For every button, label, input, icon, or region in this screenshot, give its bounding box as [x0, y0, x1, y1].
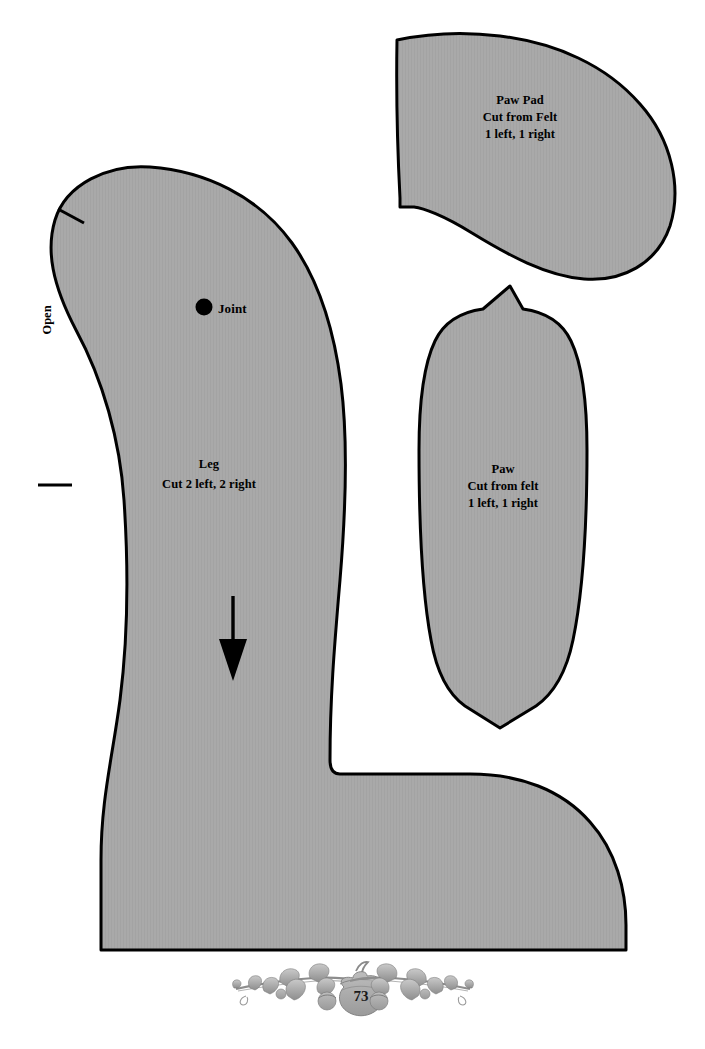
paw-pad-label-line-2: Cut from Felt: [483, 110, 558, 124]
page-number: 73: [354, 988, 369, 1004]
paw-pad-label-line-3: 1 left, 1 right: [485, 127, 556, 141]
leg-label-line-2: Cut 2 left, 2 right: [162, 477, 257, 491]
pattern-sheet-page: Open Joint Leg Cut 2 left, 2 right Paw P…: [0, 0, 705, 1049]
leg-open-label: Open: [40, 305, 54, 334]
leg-joint-label: Joint: [218, 301, 247, 316]
leg-joint-dot: [196, 299, 213, 316]
paw-label-line-3: 1 left, 1 right: [468, 496, 539, 510]
pattern-piece-paw[interactable]: Paw Cut from felt 1 left, 1 right: [419, 286, 587, 728]
leg-label-line-1: Leg: [199, 457, 220, 471]
paw-pad-label-line-1: Paw Pad: [496, 93, 544, 107]
paw-pad-outline: [397, 34, 675, 280]
paw-label-line-1: Paw: [491, 462, 514, 476]
pattern-pieces-canvas: Open Joint Leg Cut 2 left, 2 right Paw P…: [0, 0, 705, 1049]
pattern-piece-paw-pad[interactable]: Paw Pad Cut from Felt 1 left, 1 right: [397, 34, 675, 280]
paw-label-line-2: Cut from felt: [467, 479, 539, 493]
ornament-left-branch: [233, 964, 357, 1010]
footer-ornament: 73: [228, 958, 478, 1024]
